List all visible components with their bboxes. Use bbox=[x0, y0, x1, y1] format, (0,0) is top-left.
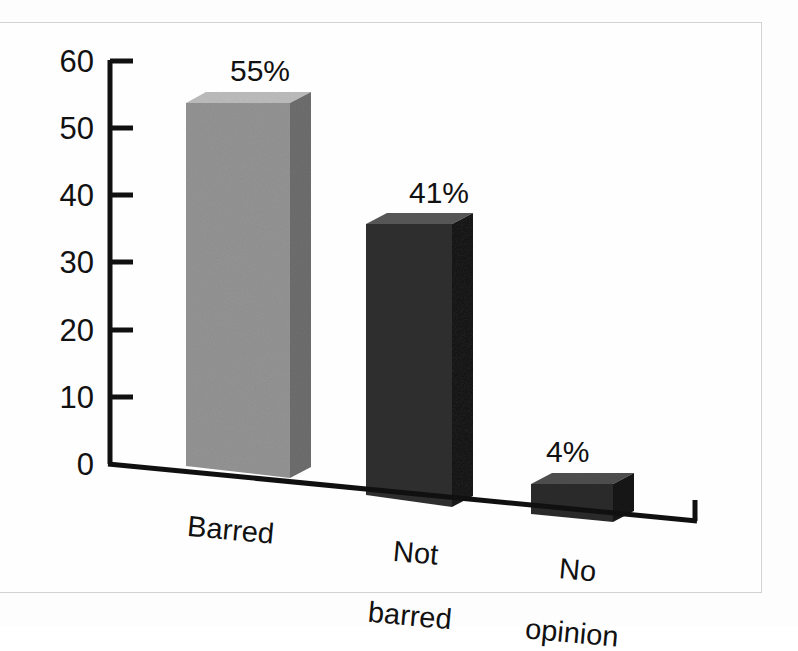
bar-not-barred-side bbox=[452, 213, 473, 507]
bar-barred bbox=[186, 92, 311, 478]
y-axis-label-60: 60 bbox=[22, 46, 94, 77]
y-axis-label-0: 0 bbox=[22, 449, 94, 480]
bar-value-label-not-barred: 41% bbox=[409, 178, 469, 208]
category-label-no-opinion-line2: opinion bbox=[524, 612, 620, 651]
y-axis-label-40: 40 bbox=[22, 180, 94, 211]
category-label-not-barred-line1: Not bbox=[392, 535, 440, 571]
category-label-no-opinion: No opinion bbox=[476, 515, 677, 651]
bar-barred-top bbox=[186, 92, 311, 103]
y-axis-label-30: 30 bbox=[22, 247, 94, 278]
y-axis-label-50: 50 bbox=[22, 113, 94, 144]
y-axis-label-20: 20 bbox=[22, 315, 94, 346]
y-axis-ticks bbox=[110, 61, 133, 397]
bar-not-barred bbox=[366, 213, 473, 507]
bar-barred-side bbox=[290, 92, 311, 478]
bar-value-label-no-opinion: 4% bbox=[546, 437, 589, 467]
bar-barred-face bbox=[186, 103, 290, 478]
bar-value-label-barred: 55% bbox=[230, 56, 290, 86]
category-label-no-opinion-line1: No bbox=[558, 552, 598, 587]
bar-not-barred-face bbox=[366, 224, 452, 507]
bar-no-opinion-face bbox=[531, 484, 613, 522]
y-axis-label-10: 10 bbox=[22, 382, 94, 413]
category-label-not-barred-line2: barred bbox=[367, 596, 453, 636]
